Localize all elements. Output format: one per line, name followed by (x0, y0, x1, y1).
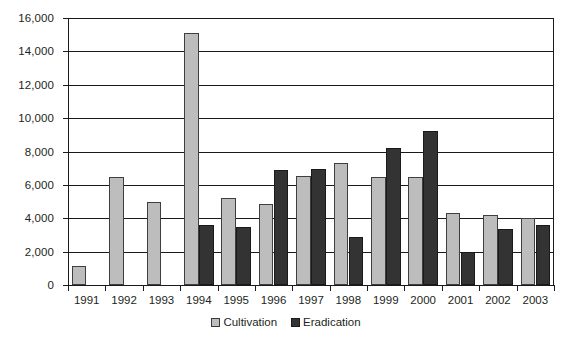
bar-cultivation-1996 (259, 204, 274, 285)
y-tick-label: 2,000 (25, 246, 54, 258)
bar-eradication-1996 (274, 170, 289, 285)
bar-eradication-1999 (386, 148, 401, 285)
legend-item-eradication[interactable]: Eradication (291, 316, 361, 328)
y-tick-label: 4,000 (25, 212, 54, 224)
chart-legend: CultivationEradication (0, 316, 572, 328)
y-axis-labels: 02,0004,0006,0008,00010,00012,00014,0001… (0, 0, 64, 345)
bar-eradication-1998 (349, 237, 364, 285)
bar-cultivation-1992 (109, 177, 124, 285)
bar-cultivation-1997 (296, 176, 311, 285)
bar-cultivation-2000 (408, 177, 423, 285)
y-tick-label: 0 (48, 279, 55, 291)
bar-series-container (68, 18, 554, 285)
x-tick-mark (442, 285, 443, 291)
bar-group-1996 (255, 18, 292, 285)
x-tick-mark (105, 285, 106, 291)
x-tick-label-1991: 1991 (74, 294, 100, 306)
bar-group-1993 (143, 18, 180, 285)
bar-cultivation-1993 (147, 202, 162, 285)
bar-eradication-1997 (311, 169, 326, 285)
bar-cultivation-1998 (334, 163, 349, 285)
bar-group-2003 (517, 18, 554, 285)
legend-swatch-icon (211, 318, 220, 327)
y-tick-label: 12,000 (18, 79, 54, 91)
x-tick-label-1996: 1996 (261, 294, 287, 306)
x-tick-mark (479, 285, 480, 291)
x-axis: 1991199219931994199519961997199819992000… (68, 285, 554, 315)
plot-area (68, 18, 554, 285)
bar-cultivation-1991 (72, 266, 87, 285)
x-tick-mark (404, 285, 405, 291)
bar-cultivation-2001 (446, 213, 461, 285)
bar-group-2000 (404, 18, 441, 285)
bar-group-1995 (218, 18, 255, 285)
y-tick-label: 16,000 (18, 12, 54, 24)
x-tick-mark (554, 285, 555, 291)
bar-group-1998 (330, 18, 367, 285)
legend-swatch-icon (291, 318, 300, 327)
x-tick-mark (218, 285, 219, 291)
x-tick-mark (367, 285, 368, 291)
x-tick-mark (292, 285, 293, 291)
x-tick-label-1993: 1993 (149, 294, 175, 306)
bar-group-1991 (68, 18, 105, 285)
bar-eradication-2003 (536, 225, 551, 285)
x-tick-mark (180, 285, 181, 291)
bar-group-1997 (292, 18, 329, 285)
x-tick-label-2002: 2002 (485, 294, 511, 306)
bar-group-2002 (479, 18, 516, 285)
x-tick-mark (517, 285, 518, 291)
bar-group-1999 (367, 18, 404, 285)
x-tick-label-2003: 2003 (523, 294, 549, 306)
bar-eradication-1994 (199, 225, 214, 285)
x-tick-mark (68, 285, 69, 291)
x-tick-mark (255, 285, 256, 291)
bar-group-1992 (105, 18, 142, 285)
x-tick-label-1995: 1995 (223, 294, 249, 306)
bar-eradication-2001 (461, 252, 476, 285)
x-tick-label-2000: 2000 (410, 294, 436, 306)
bar-cultivation-1999 (371, 177, 386, 285)
y-tick-label: 14,000 (18, 45, 54, 57)
x-tick-label-1994: 1994 (186, 294, 212, 306)
x-tick-label-1992: 1992 (111, 294, 137, 306)
legend-item-cultivation[interactable]: Cultivation (211, 316, 277, 328)
bar-cultivation-2002 (483, 215, 498, 285)
x-tick-label-1997: 1997 (298, 294, 324, 306)
bar-group-1994 (180, 18, 217, 285)
bar-eradication-2000 (423, 131, 438, 285)
x-tick-label-1999: 1999 (373, 294, 399, 306)
x-tick-mark (143, 285, 144, 291)
bar-eradication-1995 (236, 227, 251, 285)
bar-cultivation-2003 (521, 218, 536, 285)
bar-group-2001 (442, 18, 479, 285)
y-tick-label: 10,000 (18, 112, 54, 124)
legend-label: Eradication (303, 316, 361, 328)
bar-cultivation-1995 (221, 198, 236, 285)
bar-chart: 02,0004,0006,0008,00010,00012,00014,0001… (0, 0, 572, 345)
x-tick-mark (330, 285, 331, 291)
y-tick-label: 6,000 (25, 179, 54, 191)
bar-eradication-2002 (498, 229, 513, 285)
x-tick-label-1998: 1998 (336, 294, 362, 306)
legend-label: Cultivation (223, 316, 277, 328)
y-tick-label: 8,000 (25, 146, 54, 158)
bar-cultivation-1994 (184, 33, 199, 285)
x-tick-label-2001: 2001 (448, 294, 474, 306)
